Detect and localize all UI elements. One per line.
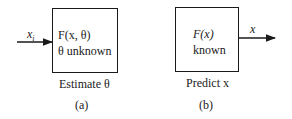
caption-a: Estimate θ [59,77,110,92]
estimate-box: F(x, θ) θ unknown [52,8,118,73]
caption-b: Predict x [186,76,229,91]
model-function-a: F(x, θ) [58,28,90,43]
panel-label-b: (b) [199,98,213,113]
unknown-param-text: θ unknown [58,44,111,59]
output-label: x [250,22,255,37]
predict-box: F(x) known [175,7,239,72]
model-function-b: F(x) [193,27,214,42]
input-label: xi [27,27,35,43]
panel-label-a: (a) [75,98,88,113]
known-text: known [193,43,226,58]
arrows [0,0,292,119]
input-subscript: i [32,34,34,43]
